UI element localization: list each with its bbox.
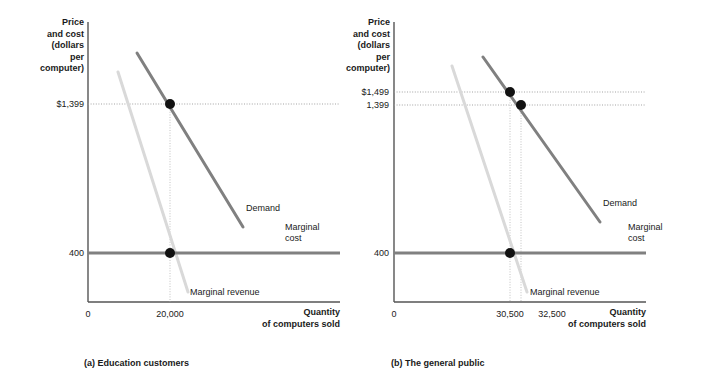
x-tick-label-20000-a: 20,000: [140, 309, 200, 319]
y-axis-title-a: Price and cost (dollars per computer): [4, 17, 84, 75]
marginal-cost-label-line-1-a: Marginal: [285, 222, 320, 233]
point-mc-quantity-b: [505, 248, 515, 258]
origin-label-a: 0: [78, 309, 98, 319]
y-axis-title-line-4-b: per: [310, 52, 390, 64]
point-price-1499-b: [505, 87, 515, 97]
x-axis-title-line-2-b: of computers sold: [506, 319, 646, 331]
marginal-cost-label-b: Marginal cost: [628, 222, 663, 244]
y-axis-title-line-2-b: and cost: [310, 29, 390, 41]
point-price-1399-a: [165, 99, 175, 109]
point-price-1399-b: [516, 100, 526, 110]
y-axis-title-line-1: Price: [4, 17, 84, 29]
x-axis-title-b: Quantity of computers sold: [506, 307, 646, 330]
y-axis-title-line-1-b: Price: [310, 17, 390, 29]
y-axis-title-line-2: and cost: [4, 29, 84, 41]
y-tick-label-400-a: 400: [24, 248, 84, 258]
x-axis-title-line-1: Quantity: [200, 307, 340, 319]
chart-panel-b: Price and cost (dollars per computer) $1…: [355, 0, 709, 388]
marginal-cost-label-line-2-a: cost: [285, 233, 320, 244]
panel-caption-b: (b) The general public: [391, 358, 485, 368]
y-axis-title-b: Price and cost (dollars per computer): [310, 17, 390, 75]
x-axis-title-line-1-b: Quantity: [506, 307, 646, 319]
marginal-cost-label-a: Marginal cost: [285, 222, 320, 244]
y-axis-title-line-3-b: (dollars: [310, 40, 390, 52]
point-mc-quantity-a: [165, 248, 175, 258]
x-axis-title-line-2: of computers sold: [200, 319, 340, 331]
y-axis-title-line-5: computer): [4, 63, 84, 75]
marginal-revenue-label-a: Marginal revenue: [190, 287, 260, 298]
marginal-cost-label-line-1-b: Marginal: [628, 222, 663, 233]
demand-label-b: Demand: [603, 198, 637, 209]
y-tick-label-1499-b: $1,499: [329, 87, 389, 97]
demand-curve-b: [483, 57, 600, 222]
y-tick-label-400-b: 400: [329, 248, 389, 258]
y-axis-title-line-3: (dollars: [4, 40, 84, 52]
demand-curve-a: [137, 53, 243, 227]
figure-container: Price and cost (dollars per computer) $1…: [0, 0, 709, 388]
y-tick-label-1399-a: $1,399: [24, 99, 84, 109]
demand-label-a: Demand: [246, 203, 280, 214]
chart-panel-a: Price and cost (dollars per computer) $1…: [0, 0, 354, 388]
marginal-revenue-label-b: Marginal revenue: [530, 287, 600, 298]
marginal-revenue-curve-b: [452, 66, 527, 292]
panel-caption-a: (a) Education customers: [84, 358, 189, 368]
x-axis-title-a: Quantity of computers sold: [200, 307, 340, 330]
origin-label-b: 0: [384, 309, 404, 319]
y-axis-title-line-4: per: [4, 52, 84, 64]
marginal-revenue-curve-a: [118, 72, 188, 292]
y-axis-title-line-5-b: computer): [310, 63, 390, 75]
marginal-cost-label-line-2-b: cost: [628, 233, 663, 244]
y-tick-label-1399-b: 1,399: [329, 100, 389, 110]
